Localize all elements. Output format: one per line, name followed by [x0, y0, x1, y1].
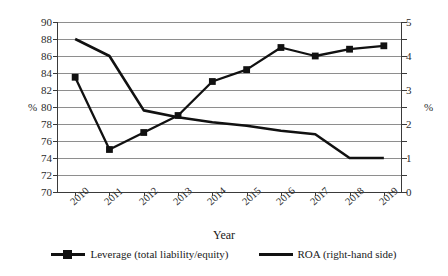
x-tickmark — [281, 192, 282, 196]
y-axis-right-tick-label: 3 — [406, 84, 426, 96]
y-axis-left-tick-label: 84 — [26, 67, 52, 79]
y-tickmark-right — [401, 192, 407, 193]
x-tickmark — [350, 192, 351, 196]
y-axis-right-tick-label: 5 — [406, 16, 426, 28]
y-axis-right-tick-label: 2 — [406, 118, 426, 130]
chart-legend: Leverage (total liability/equity) ROA (r… — [0, 248, 448, 260]
y-axis-left-tick-label: 80 — [26, 101, 52, 113]
legend-label-leverage: Leverage (total liability/equity) — [90, 248, 228, 260]
y-tickmark-right — [401, 107, 407, 108]
y-tickmark-right — [401, 158, 407, 159]
y-tickmark-right — [401, 90, 407, 91]
data-point-marker — [140, 129, 147, 136]
y-axis-right-tick-label: 1 — [406, 152, 426, 164]
y-axis-left-tick-label: 78 — [26, 118, 52, 130]
data-point-marker — [346, 46, 353, 53]
y-axis-right-unit-label: % — [424, 101, 433, 113]
y-tickmark-right — [401, 73, 407, 74]
y-axis-left-tick-label: 76 — [26, 135, 52, 147]
x-tickmark — [75, 192, 76, 196]
data-point-marker — [243, 66, 250, 73]
x-axis-title: Year — [0, 228, 448, 243]
data-point-marker — [209, 78, 216, 85]
x-tickmark — [247, 192, 248, 196]
y-tickmark-right — [401, 39, 407, 40]
x-tickmark — [109, 192, 110, 196]
x-tickmark — [178, 192, 179, 196]
chart-container: % % 9088868482807876747270 543210 201020… — [0, 0, 448, 276]
y-axis-right-tick-label: 0 — [406, 186, 426, 198]
y-axis-right-tick-label: 4 — [406, 50, 426, 62]
y-tickmark-right — [401, 56, 407, 57]
x-tickmark — [384, 192, 385, 196]
legend-item-roa: ROA (right-hand side) — [259, 248, 397, 260]
data-point-marker — [380, 42, 387, 49]
legend-swatch-roa — [259, 253, 293, 256]
x-tickmark — [212, 192, 213, 196]
y-axis-left-tick-label: 86 — [26, 50, 52, 62]
y-axis-left-tick-label: 90 — [26, 16, 52, 28]
y-axis-left-tick-label: 72 — [26, 169, 52, 181]
y-tickmark-right — [401, 175, 407, 176]
y-axis-left-tick-label: 88 — [26, 33, 52, 45]
series-line — [75, 46, 384, 150]
series-lines — [58, 22, 401, 192]
series-line — [75, 39, 384, 158]
legend-item-leverage: Leverage (total liability/equity) — [51, 248, 228, 260]
y-tickmark-right — [401, 141, 407, 142]
y-tickmark-left — [53, 192, 58, 193]
legend-label-roa: ROA (right-hand side) — [298, 248, 397, 260]
y-axis-left-tick-label: 74 — [26, 152, 52, 164]
y-tickmark-right — [401, 22, 407, 23]
plot-area — [57, 22, 402, 193]
data-point-marker — [106, 146, 113, 153]
legend-swatch-leverage — [51, 253, 85, 256]
square-marker-icon — [63, 250, 72, 259]
x-tickmark — [315, 192, 316, 196]
x-tickmark — [144, 192, 145, 196]
data-point-marker — [72, 74, 79, 81]
y-axis-left-tick-label: 82 — [26, 84, 52, 96]
y-tickmark-right — [401, 124, 407, 125]
data-point-marker — [312, 53, 319, 60]
data-point-marker — [278, 44, 285, 51]
y-axis-left-tick-label: 70 — [26, 186, 52, 198]
